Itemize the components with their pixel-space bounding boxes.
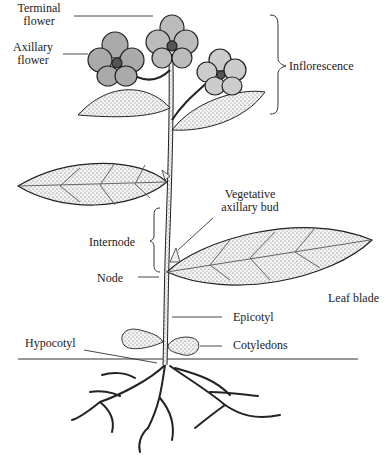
label-internode: Internode: [89, 236, 135, 249]
label-vegetative-bud-line2: axillary bud: [210, 201, 290, 214]
label-leaf-blade: Leaf blade: [328, 292, 379, 305]
side-flower: [197, 49, 246, 95]
terminal-flower: [146, 15, 198, 68]
label-axillary-flower-line2: flower: [6, 54, 60, 67]
label-hypocotyl: Hypocotyl: [25, 337, 76, 350]
leader-hypocotyl: [84, 350, 157, 363]
label-axillary-flower: Axillary flower: [6, 41, 60, 67]
leaf-upper-left: [78, 90, 170, 117]
label-terminal-flower-line2: flower: [8, 15, 70, 28]
leader-vegetative-bud: [178, 218, 213, 250]
label-inflorescence: Inflorescence: [289, 60, 354, 73]
label-vegetative-axillary-bud: Vegetative axillary bud: [210, 188, 290, 214]
label-epicotyl: Epicotyl: [233, 311, 274, 324]
leaf-upper-right: [172, 91, 265, 130]
label-node: Node: [97, 272, 123, 285]
inflorescence-brace: [270, 15, 286, 114]
internode-brace: [150, 208, 160, 272]
label-cotyledons: Cotyledons: [233, 339, 288, 352]
root-system: [72, 365, 280, 452]
label-terminal-flower: Terminal flower: [8, 2, 70, 28]
axillary-flower: [88, 32, 144, 86]
cotyledon-right: [168, 337, 199, 355]
cotyledon-left: [122, 329, 163, 349]
